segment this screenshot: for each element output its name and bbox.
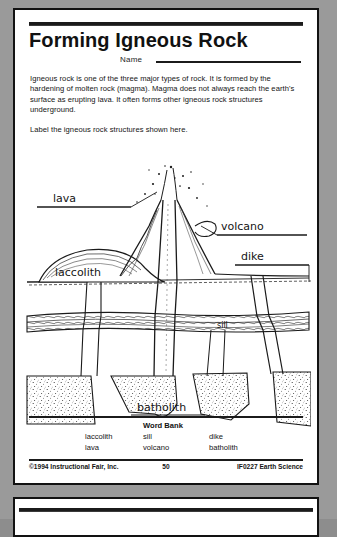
lava-eruption [136, 165, 208, 207]
label-batholith: batholith [131, 401, 205, 415]
word-bank-item: batholith [209, 442, 238, 453]
instruction-text: Label the igneous rock structures shown … [30, 125, 301, 135]
label-dike: dike [235, 250, 309, 282]
footer-row: ©1994 Instructional Fair, Inc. 50 IF0227… [29, 463, 303, 475]
page-content: Forming Igneous Rock Name Igneous rock i… [25, 16, 307, 479]
name-field-row: Name [25, 55, 301, 65]
label-lava: lava [37, 192, 157, 207]
page-title: Forming Igneous Rock [29, 29, 307, 52]
word-bank: Word Bank laccolith lava sill volcano di… [29, 416, 303, 453]
label-volcano: volcano [201, 220, 307, 235]
name-input-line[interactable] [156, 61, 301, 63]
label-volcano-text: volcano [221, 220, 264, 233]
label-batholith-text: batholith [137, 401, 186, 414]
word-bank-column-1: laccolith lava [85, 431, 112, 453]
word-bank-item: dike [209, 431, 238, 442]
footer-divider [29, 459, 303, 461]
word-bank-item: lava [85, 442, 112, 453]
volcano-cone [120, 200, 216, 276]
sill-layer [27, 312, 309, 332]
word-bank-item: volcano [143, 442, 169, 453]
label-sill: sill [217, 321, 228, 330]
next-page-preview [13, 497, 319, 537]
word-bank-item: laccolith [85, 431, 112, 442]
label-sill-text: sill [217, 321, 228, 330]
magma-conduit [154, 200, 177, 376]
word-bank-divider [29, 416, 303, 418]
secondary-dike [207, 330, 225, 376]
word-bank-column-2: sill volcano [143, 431, 169, 453]
product-code: IF0227 Earth Science [237, 463, 303, 470]
word-bank-item: sill [143, 431, 169, 442]
copyright-notice: ©1994 Instructional Fair, Inc. [29, 463, 119, 470]
label-dike-text: dike [241, 250, 264, 263]
word-bank-column-3: dike batholith [209, 431, 238, 453]
page-footer: ©1994 Instructional Fair, Inc. 50 IF0227… [29, 459, 303, 475]
label-laccolith-text: laccolith [55, 266, 101, 279]
word-bank-grid: laccolith lava sill volcano dike batholi… [29, 431, 303, 453]
header-divider [29, 22, 303, 26]
intro-paragraph: Igneous rock is one of the three major t… [30, 74, 301, 116]
label-lava-text: lava [53, 192, 76, 205]
worksheet-page: Forming Igneous Rock Name Igneous rock i… [13, 8, 319, 485]
page-number: 50 [162, 463, 169, 470]
word-bank-title: Word Bank [143, 421, 303, 430]
next-page-header-divider [19, 508, 313, 512]
label-laccolith: laccolith [55, 266, 101, 279]
name-label: Name [120, 55, 142, 65]
igneous-rock-diagram: lava volcano dike la [25, 164, 311, 429]
